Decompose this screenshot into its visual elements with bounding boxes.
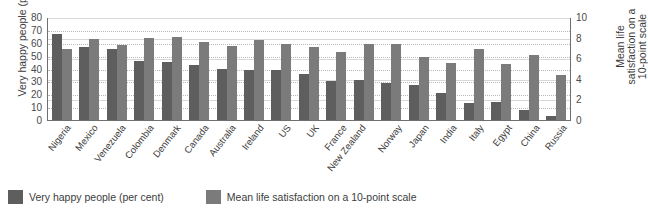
bar-satisfaction-new-zealand <box>364 44 374 120</box>
bar-happy-venezuela <box>107 49 117 120</box>
bar-happy-norway <box>381 83 391 120</box>
bar-satisfaction-norway <box>391 44 401 120</box>
bar-group <box>515 18 542 120</box>
bar-satisfaction-egypt <box>501 64 511 120</box>
bar-group <box>75 18 102 120</box>
bar-satisfaction-ireland <box>254 40 264 120</box>
bar-group <box>103 18 130 120</box>
y-axis-right-title: Mean life satisfaction on a 10-point sca… <box>615 1 648 93</box>
bar-happy-australia <box>217 69 227 121</box>
bar-satisfaction-colombia <box>144 38 154 120</box>
y-axis-right-tick-8: 8 <box>576 34 596 44</box>
bar-satisfaction-india <box>446 63 456 120</box>
bar-group <box>350 18 377 120</box>
bar-satisfaction-us <box>281 44 291 120</box>
bar-group <box>405 18 432 120</box>
bar-happy-new-zealand <box>354 80 364 120</box>
bar-groups <box>48 18 570 120</box>
bar-satisfaction-france <box>336 52 346 120</box>
bar-group <box>295 18 322 120</box>
bar-group <box>240 18 267 120</box>
bar-group <box>460 18 487 120</box>
bar-group <box>323 18 350 120</box>
bar-satisfaction-japan <box>419 57 429 120</box>
plot-area <box>47 18 571 121</box>
bar-group <box>213 18 240 120</box>
bar-satisfaction-russia <box>556 75 566 120</box>
legend-item: Very happy people (per cent) <box>8 190 164 204</box>
bar-satisfaction-denmark <box>172 37 182 120</box>
y-axis-right-tick-6: 6 <box>576 54 596 64</box>
bar-satisfaction-mexico <box>89 39 99 120</box>
bar-satisfaction-china <box>529 55 539 120</box>
bar-happy-canada <box>189 65 199 120</box>
bar-happy-italy <box>464 103 474 120</box>
bar-happy-egypt <box>491 102 501 120</box>
legend-label: Mean life satisfaction on a 10-point sca… <box>227 191 417 203</box>
bar-happy-japan <box>409 85 419 120</box>
bar-happy-france <box>326 81 336 120</box>
bar-happy-china <box>519 110 529 120</box>
x-axis-category-labels: NigeriaMexicoVenezuelaColombiaDenmarkCan… <box>47 123 571 181</box>
bar-satisfaction-venezuela <box>117 45 127 120</box>
bar-satisfaction-canada <box>199 42 209 120</box>
y-axis-left-tick-0: 0 <box>20 116 42 126</box>
bar-group <box>185 18 212 120</box>
bar-group <box>542 18 569 120</box>
y-axis-right-tick-10: 10 <box>576 13 596 23</box>
legend-swatch-icon <box>8 190 23 204</box>
bar-group <box>158 18 185 120</box>
bar-satisfaction-uk <box>309 47 319 120</box>
x-label-nigeria: Nigeria <box>22 123 73 184</box>
legend-swatch-icon <box>206 190 221 204</box>
bar-happy-colombia <box>134 61 144 120</box>
bar-happy-ireland <box>244 70 254 120</box>
bar-happy-nigeria <box>52 34 62 120</box>
bar-group <box>433 18 460 120</box>
legend-label: Very happy people (per cent) <box>29 191 164 203</box>
y-axis-right-tick-0: 0 <box>576 116 596 126</box>
chart-legend: Very happy people (per cent)Mean life sa… <box>8 190 417 204</box>
y-axis-left-title: Very happy people (per cent) <box>17 0 28 97</box>
bar-happy-india <box>436 93 446 120</box>
bar-happy-russia <box>546 116 556 120</box>
legend-item: Mean life satisfaction on a 10-point sca… <box>206 190 417 204</box>
bar-satisfaction-nigeria <box>62 49 72 120</box>
y-axis-right-tick-2: 2 <box>576 95 596 105</box>
bar-group <box>130 18 157 120</box>
y-axis-left-tick-10: 10 <box>20 103 42 113</box>
bar-group <box>378 18 405 120</box>
bar-happy-uk <box>299 74 309 120</box>
bar-happy-denmark <box>162 62 172 120</box>
bar-happy-mexico <box>79 47 89 120</box>
y-axis-right-tick-4: 4 <box>576 75 596 85</box>
bar-group <box>268 18 295 120</box>
bar-satisfaction-italy <box>474 49 484 120</box>
bar-group <box>48 18 75 120</box>
bar-happy-us <box>271 70 281 120</box>
bar-satisfaction-australia <box>227 46 237 120</box>
bar-group <box>488 18 515 120</box>
